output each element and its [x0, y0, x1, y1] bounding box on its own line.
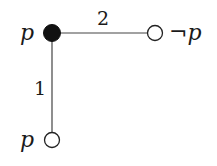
edge-label-1: 1 — [34, 77, 46, 99]
node-hollow-bottom — [45, 133, 60, 148]
node-label-n1: ¬p — [169, 20, 202, 45]
node-filled — [44, 25, 61, 42]
node-label-n0: p — [20, 20, 34, 45]
edge-label-2: 2 — [97, 7, 109, 29]
node-label-n2: p — [20, 127, 34, 152]
graph-diagram: p ¬p p 2 1 — [0, 0, 217, 166]
node-hollow-right — [148, 26, 163, 41]
